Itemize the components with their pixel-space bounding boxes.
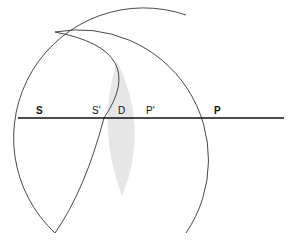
label-s-prime: S' [92, 106, 101, 116]
arc-2 [14, 8, 186, 233]
diagram: S S' D P' P [0, 0, 294, 249]
diagram-canvas [0, 0, 294, 249]
label-d: D [118, 106, 125, 116]
shaded-lens-region [108, 61, 135, 196]
label-p-prime: P' [146, 106, 155, 116]
label-p: P [214, 106, 221, 116]
label-s: S [36, 106, 43, 116]
